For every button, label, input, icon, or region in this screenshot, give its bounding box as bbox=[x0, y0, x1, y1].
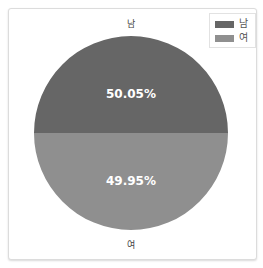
legend: 남 여 bbox=[209, 13, 256, 48]
slice-label-female: 여 bbox=[127, 238, 135, 251]
legend-swatch-female bbox=[215, 35, 234, 42]
slice-label-male: 남 bbox=[127, 17, 135, 30]
legend-item-male[interactable]: 남 bbox=[215, 19, 248, 29]
pie-slice-male[interactable] bbox=[34, 36, 228, 133]
legend-label-male: 남 bbox=[239, 19, 248, 29]
legend-item-female[interactable]: 여 bbox=[215, 33, 248, 43]
percent-label-female: 49.95% bbox=[106, 174, 156, 188]
percent-label-male: 50.05% bbox=[106, 87, 156, 101]
legend-swatch-male bbox=[215, 21, 234, 28]
legend-label-female: 여 bbox=[239, 33, 248, 43]
